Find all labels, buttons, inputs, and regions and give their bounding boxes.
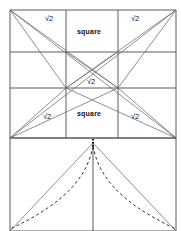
diagonal-bl-to-center-left — [10, 88, 66, 138]
label-sqrt-bottom-right: √2 — [131, 113, 139, 121]
diagonal-bl-to-center-right — [10, 88, 118, 138]
diagonal-br-to-center-right — [118, 88, 176, 138]
label-sqrt-top-right: √2 — [131, 15, 139, 23]
label-square-bottom: square — [77, 110, 101, 117]
ray-apex-to-bottom-right — [93, 143, 176, 231]
diagonal-tl-to-center-right — [10, 10, 118, 88]
ray-apex-to-bottom-left — [10, 143, 93, 231]
label-sqrt-center: √2 — [87, 78, 95, 86]
figure-root: Square root of two dissection figure — [0, 0, 181, 231]
lower-panel — [10, 138, 176, 231]
diagonal-tr-to-center-right — [118, 10, 176, 88]
diagonal-tl-to-center-left — [10, 10, 66, 88]
label-sqrt-bottom-left: √2 — [43, 113, 51, 121]
label-square-top: square — [77, 28, 101, 35]
label-sqrt-top-left: √2 — [45, 15, 53, 23]
